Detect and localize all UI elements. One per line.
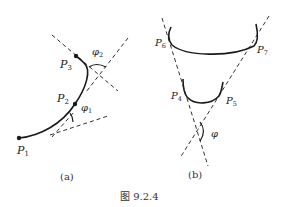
panel-a: P1 P2 P3 φ1 φ2 (a) [16,35,128,182]
label-phi2: φ2 [92,46,103,59]
dashed-line-a3 [50,116,108,135]
figure-9-2-4: P1 P2 P3 φ1 φ2 (a) P6 P7 P4 P5 φ (b) 图 9… [0,0,283,207]
point-p3 [74,54,78,58]
panel-b-label: (b) [188,169,202,180]
panel-b: P6 P7 P4 P5 φ (b) [154,16,269,180]
angle-arc-phi2 [89,65,106,68]
label-phi1: φ1 [81,102,92,115]
label-p6: P6 [154,37,166,50]
label-p4: P4 [170,90,182,103]
label-p5: P5 [225,95,237,108]
label-p1: P1 [16,144,29,158]
point-p2 [73,102,77,106]
label-p3: P3 [59,58,72,72]
label-phi: φ [211,128,218,139]
point-p1 [17,136,21,140]
dashed-line-b2 [180,16,269,158]
curve-top [169,24,257,54]
figure-caption: 图 9.2.4 [120,191,159,202]
label-p2: P2 [56,92,69,106]
label-p7: P7 [256,44,268,57]
panel-a-label: (a) [60,171,74,182]
diagram-canvas: P1 P2 P3 φ1 φ2 (a) P6 P7 P4 P5 φ (b) 图 9… [0,0,283,207]
